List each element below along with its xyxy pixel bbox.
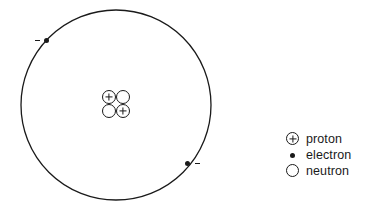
atom-figure	[0, 0, 232, 209]
legend-item-proton: proton	[285, 131, 363, 147]
neutron-icon	[285, 163, 301, 179]
legend-label-proton: proton	[306, 131, 342, 147]
legend-item-electron: electron	[285, 147, 363, 163]
nucleus-proton-bottom-right	[116, 104, 130, 118]
legend-label-electron: electron	[306, 147, 351, 163]
atom-diagram: proton electron neutron	[0, 0, 367, 209]
nucleus	[102, 90, 130, 118]
legend-item-neutron: neutron	[285, 163, 363, 179]
electron-charge-dash-lower-right	[195, 163, 200, 164]
proton-icon	[285, 131, 301, 147]
nucleus-neutron-top-right	[116, 90, 130, 104]
legend-label-neutron: neutron	[306, 163, 349, 179]
electron-lower-right	[185, 161, 190, 166]
electron-icon	[285, 147, 301, 163]
electron-upper-left	[44, 38, 49, 43]
nucleus-neutron-bottom-left	[102, 104, 116, 118]
nucleus-proton-top-left	[102, 90, 116, 104]
legend: proton electron neutron	[285, 131, 363, 179]
electron-charge-dash-upper-left	[35, 40, 40, 41]
